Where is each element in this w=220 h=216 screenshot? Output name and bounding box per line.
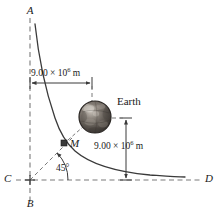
vertical-distance-mantissa: 9.00 × 10	[94, 141, 130, 151]
angle-label: 45°	[56, 164, 69, 174]
axis-label-a: A	[27, 5, 34, 16]
point-m-label: M	[70, 138, 79, 149]
axis-label-d: D	[205, 173, 213, 184]
horizontal-distance-mantissa: 9.00 × 10	[31, 68, 67, 78]
vertical-distance-label: 9.00 × 106 m	[94, 142, 143, 152]
axis-label-c: C	[4, 173, 11, 184]
origin-marker	[25, 175, 35, 185]
horizontal-distance-unit: m	[70, 68, 80, 78]
axis-label-b: B	[27, 198, 34, 209]
physics-diagram: A B C D 9.00 × 106 m 9.00 × 106 m Earth …	[0, 0, 220, 216]
point-m-marker	[61, 140, 67, 146]
earth-label: Earth	[117, 96, 141, 107]
earth-sphere-icon	[79, 100, 111, 133]
horizontal-distance-label: 9.00 × 106 m	[31, 69, 80, 79]
diagram-canvas	[0, 0, 220, 216]
vertical-distance-unit: m	[133, 141, 143, 151]
